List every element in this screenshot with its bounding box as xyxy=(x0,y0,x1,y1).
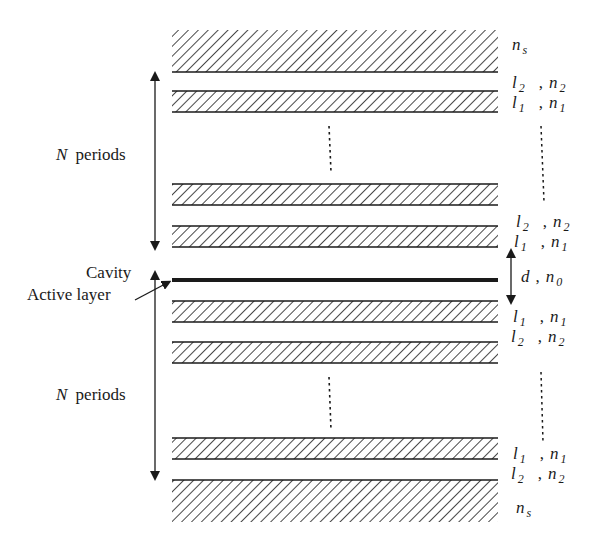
lower-dbr-band-2 xyxy=(172,342,498,363)
active-layer-pointer-arrow xyxy=(135,283,167,300)
bottom-l2-n2-label: l2,n2 xyxy=(511,465,564,482)
right-upper-ellipsis-dots xyxy=(541,126,544,202)
upper-periods-label: N periods xyxy=(56,146,126,163)
upper-dbr-band-3 xyxy=(172,226,498,247)
bottom-substrate-layer xyxy=(172,480,498,522)
periods-text: periods xyxy=(76,385,126,404)
lower-dbr-band-1 xyxy=(172,301,498,322)
lower-l1-n1-label: l1,n1 xyxy=(513,308,566,325)
upper-ellipsis-dots xyxy=(329,126,331,172)
upper-dbr-band-2 xyxy=(172,184,498,205)
top-substrate-index-label: ns xyxy=(512,36,527,53)
bottom-substrate-index-label: ns xyxy=(516,499,531,516)
period-count-symbol: N xyxy=(56,145,67,164)
right-lower-ellipsis-dots xyxy=(541,372,543,442)
top-substrate-layer xyxy=(172,30,498,72)
top-l1-n1-label: l1,n1 xyxy=(512,94,565,111)
upper-l2-n2-label: l2,n2 xyxy=(516,213,569,230)
lower-dbr-band-3 xyxy=(172,438,498,459)
lower-l2-n2-label: l2,n2 xyxy=(511,328,564,345)
lower-periods-label: N periods xyxy=(56,386,126,403)
upper-dbr-band-1 xyxy=(172,91,498,112)
bottom-l1-n1-label: l1,n1 xyxy=(513,445,566,462)
lower-ellipsis-dots xyxy=(329,377,331,430)
periods-text: periods xyxy=(76,145,126,164)
period-count-symbol: N xyxy=(56,385,67,404)
cavity-d-n0-label: d,n0 xyxy=(521,268,562,285)
top-l2-n2-label: l2,n2 xyxy=(512,74,565,91)
cavity-label: Cavity xyxy=(86,264,131,281)
active-layer-label: Active layer xyxy=(27,286,111,303)
upper-l1-n1-label: l1,n1 xyxy=(514,233,567,250)
